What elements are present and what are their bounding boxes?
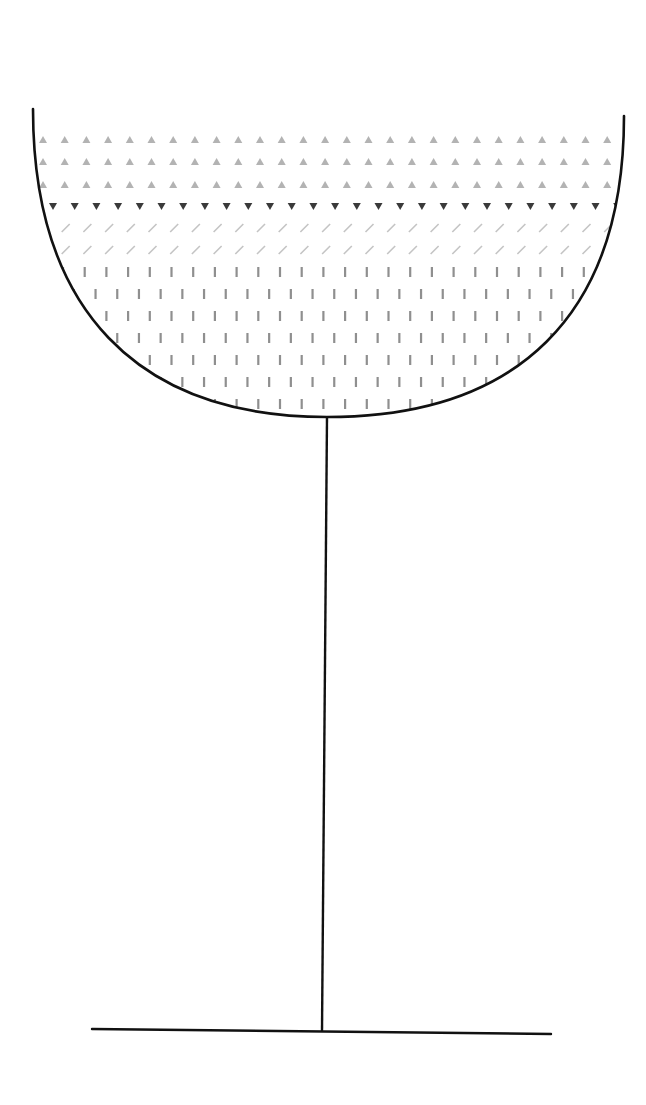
triangle-down-mark	[223, 203, 231, 210]
triangle-up-mark	[343, 136, 351, 143]
top-layer	[0, 136, 633, 188]
glass-stem	[322, 417, 327, 1031]
triangle-down-mark	[201, 203, 209, 210]
triangle-up-mark	[234, 136, 242, 143]
triangle-up-mark	[538, 136, 546, 143]
triangle-down-mark	[570, 203, 578, 210]
slash-mark	[62, 246, 70, 254]
slash-mark	[496, 246, 504, 254]
slash-mark	[452, 246, 460, 254]
slash-mark	[127, 224, 135, 232]
triangle-down-mark	[418, 203, 426, 210]
triangle-up-mark	[473, 158, 481, 165]
slash-mark	[517, 246, 525, 254]
triangle-up-mark	[104, 158, 112, 165]
triangle-up-mark	[603, 158, 611, 165]
triangle-up-mark	[386, 136, 394, 143]
triangle-up-mark	[234, 158, 242, 165]
slash-mark	[626, 246, 634, 254]
triangle-up-mark	[191, 136, 199, 143]
glass-bowl	[33, 109, 624, 417]
triangle-up-mark	[17, 136, 25, 143]
slash-mark	[235, 246, 243, 254]
triangle-up-mark	[17, 181, 25, 188]
triangle-down-mark	[6, 203, 14, 210]
triangle-up-mark	[17, 158, 25, 165]
slash-mark	[431, 246, 439, 254]
triangle-up-mark	[495, 136, 503, 143]
boundary-layer	[6, 203, 643, 210]
slash-mark	[300, 246, 308, 254]
slash-mark	[83, 224, 91, 232]
triangle-up-mark	[148, 136, 156, 143]
triangle-up-mark	[451, 136, 459, 143]
triangle-down-mark	[158, 203, 166, 210]
triangle-up-mark	[278, 136, 286, 143]
triangle-up-mark	[256, 181, 264, 188]
triangle-up-mark	[365, 136, 373, 143]
triangle-up-mark	[495, 158, 503, 165]
triangle-up-mark	[61, 181, 69, 188]
triangle-down-mark	[266, 203, 274, 210]
triangle-up-mark	[516, 158, 524, 165]
slash-mark	[0, 224, 5, 232]
triangle-up-mark	[582, 158, 590, 165]
slash-mark	[344, 224, 352, 232]
triangle-down-mark	[92, 203, 100, 210]
triangle-up-mark	[126, 181, 134, 188]
slash-mark	[387, 224, 395, 232]
slash-mark	[192, 224, 200, 232]
slash-mark	[279, 246, 287, 254]
triangle-down-mark	[136, 203, 144, 210]
triangle-up-mark	[299, 136, 307, 143]
triangle-down-mark	[244, 203, 252, 210]
triangle-down-mark	[396, 203, 404, 210]
slash-mark	[257, 224, 265, 232]
triangle-up-mark	[538, 158, 546, 165]
triangle-down-mark	[179, 203, 187, 210]
slash-mark	[474, 224, 482, 232]
triangle-up-mark	[560, 136, 568, 143]
triangle-up-mark	[473, 136, 481, 143]
triangle-down-mark	[353, 203, 361, 210]
triangle-up-mark	[82, 136, 90, 143]
slash-mark	[170, 224, 178, 232]
triangle-up-mark	[213, 181, 221, 188]
triangle-up-mark	[126, 136, 134, 143]
slash-mark	[561, 224, 569, 232]
slash-mark	[366, 246, 374, 254]
slash-mark	[105, 246, 113, 254]
slash-mark	[322, 246, 330, 254]
slash-mark	[127, 246, 135, 254]
triangle-up-mark	[321, 136, 329, 143]
triangle-up-mark	[495, 181, 503, 188]
slash-mark	[40, 246, 48, 254]
triangle-up-mark	[278, 158, 286, 165]
triangle-up-mark	[451, 158, 459, 165]
slash-mark	[452, 224, 460, 232]
triangle-up-mark	[61, 158, 69, 165]
triangle-up-mark	[256, 136, 264, 143]
slash-mark	[387, 246, 395, 254]
triangle-up-mark	[0, 158, 4, 165]
triangle-up-mark	[430, 181, 438, 188]
slash-mark	[300, 224, 308, 232]
slash-mark	[214, 246, 222, 254]
triangle-up-mark	[538, 181, 546, 188]
slash-mark	[149, 246, 157, 254]
slash-mark	[0, 246, 5, 254]
triangle-down-mark	[114, 203, 122, 210]
triangle-up-mark	[386, 181, 394, 188]
triangle-up-mark	[234, 181, 242, 188]
slash-mark	[496, 224, 504, 232]
triangle-up-mark	[169, 181, 177, 188]
slash-mark	[149, 224, 157, 232]
triangle-up-mark	[213, 158, 221, 165]
triangle-down-mark	[635, 203, 643, 210]
triangle-up-mark	[61, 136, 69, 143]
triangle-up-mark	[191, 181, 199, 188]
triangle-up-mark	[82, 181, 90, 188]
slash-mark	[214, 224, 222, 232]
triangle-up-mark	[603, 181, 611, 188]
triangle-up-mark	[516, 181, 524, 188]
